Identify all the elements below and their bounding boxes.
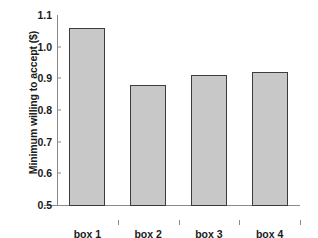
x-axis-category-label: box 4 (256, 228, 283, 238)
x-axis-tick-mark (118, 220, 119, 225)
y-axis-tick-label: 1.0 (37, 41, 57, 52)
x-axis-tick-mark (239, 220, 240, 225)
x-axis-tick-mark (179, 220, 180, 225)
bar (69, 28, 105, 206)
y-axis-tick-mark (57, 141, 61, 142)
y-axis-tick-label: 0.9 (37, 73, 57, 84)
y-axis-tick-label: 0.6 (37, 168, 57, 179)
y-axis-tick-label: 0.8 (37, 105, 57, 116)
bar (130, 85, 166, 206)
y-axis-tick-label: 0.7 (37, 136, 57, 147)
y-axis-tick-mark (57, 173, 61, 174)
bar (191, 75, 227, 206)
bar-chart: Minimum willing to accept ($) 1.11.00.90… (0, 0, 318, 238)
x-axis-category-label: box 1 (74, 228, 101, 238)
y-axis-tick-label: 0.5 (37, 200, 57, 211)
x-axis-category-label: box 2 (134, 228, 161, 238)
x-axis-tick-mark (300, 220, 301, 225)
bar (252, 72, 288, 206)
x-axis-category-label: box 3 (195, 228, 222, 238)
y-axis-tick-label: 1.1 (37, 10, 57, 21)
y-axis-tick-mark (57, 110, 61, 111)
y-axis-tick-mark (57, 46, 61, 47)
y-axis-tick-mark (57, 78, 61, 79)
plot-area: 1.11.00.90.80.70.60.5box 1box 2box 3box … (57, 15, 300, 205)
